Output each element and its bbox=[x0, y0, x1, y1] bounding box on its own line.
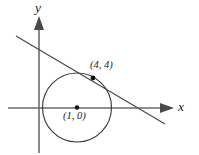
x-axis-label: x bbox=[178, 100, 184, 114]
tangent-point-dot bbox=[91, 76, 96, 81]
y-axis-arrowhead bbox=[34, 16, 44, 30]
geometry-figure: y x (4, 4) (1, 0) bbox=[0, 0, 199, 155]
tangent-point-label: (4, 4) bbox=[90, 60, 113, 71]
x-axis-arrowhead bbox=[160, 103, 174, 113]
figure-canvas bbox=[0, 0, 199, 155]
center-point-label: (1, 0) bbox=[63, 111, 86, 122]
y-axis-label: y bbox=[35, 1, 41, 15]
